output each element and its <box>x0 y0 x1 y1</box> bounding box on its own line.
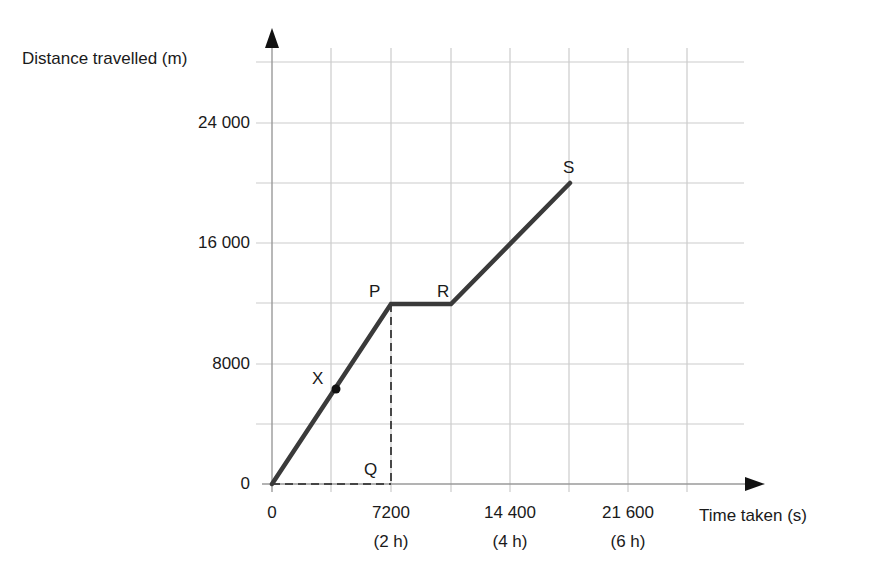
point-label-r: R <box>437 283 449 300</box>
y-axis-arrow-icon <box>265 28 279 48</box>
y-axis-title: Distance travelled (m) <box>22 50 187 67</box>
x-axis-title: Time taken (s) <box>699 507 807 524</box>
journey-line <box>272 183 570 484</box>
axes <box>262 28 765 492</box>
y-tick-label: 24 000 <box>130 114 250 131</box>
x-tick-label: 21 600 <box>578 504 678 521</box>
x-tick-label: 0 <box>222 504 322 521</box>
point-label-s: S <box>563 159 574 176</box>
point-label-q: Q <box>364 461 377 478</box>
grid <box>256 48 744 492</box>
y-tick-label: 8000 <box>130 355 250 372</box>
y-tick-label: 16 000 <box>130 234 250 251</box>
point-x-marker <box>332 385 341 394</box>
x-tick-sublabel: (4 h) <box>460 533 560 550</box>
x-tick-label: 14 400 <box>460 504 560 521</box>
y-tick-label: 0 <box>130 475 250 492</box>
x-tick-sublabel: (6 h) <box>578 533 678 550</box>
x-tick-sublabel: (2 h) <box>341 533 441 550</box>
point-label-p: P <box>369 283 380 300</box>
x-tick-label: 7200 <box>341 504 441 521</box>
x-axis-arrow-icon <box>745 477 765 491</box>
point-label-x: X <box>312 370 323 387</box>
